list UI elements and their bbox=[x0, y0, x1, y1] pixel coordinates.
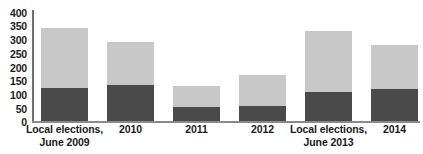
y-tick-label: 200 bbox=[10, 63, 27, 73]
bar-group bbox=[371, 45, 418, 121]
y-tick-label: 50 bbox=[16, 104, 27, 114]
bar-segment-upper bbox=[173, 86, 220, 107]
x-axis-tick-labels: Local elections, June 2009 2010 2011 201… bbox=[32, 123, 420, 154]
bar-segment-lower bbox=[305, 92, 352, 121]
bar-segment-upper bbox=[305, 31, 352, 91]
bar-segment-upper bbox=[371, 45, 418, 89]
y-axis-tick-labels: 400 350 300 250 200 150 100 50 0 bbox=[0, 0, 30, 130]
y-tick-label: 150 bbox=[10, 76, 27, 86]
bar-group bbox=[107, 42, 154, 121]
y-tick-label: 250 bbox=[10, 49, 27, 59]
bar-segment-lower bbox=[107, 85, 154, 121]
x-tick-label-line1: 2014 bbox=[383, 123, 406, 135]
bar-group bbox=[239, 75, 286, 121]
bar-segment-upper bbox=[239, 75, 286, 106]
y-tick-label: 300 bbox=[10, 35, 27, 45]
x-tick-label-line1: Local elections, bbox=[290, 123, 367, 135]
x-tick-label: 2010 bbox=[98, 123, 163, 136]
x-tick-label-line1: Local elections, bbox=[26, 123, 103, 135]
stacked-bar-chart: 400 350 300 250 200 150 100 50 0 bbox=[0, 0, 423, 154]
plot-area bbox=[32, 10, 420, 121]
x-tick-label-line1: 2012 bbox=[251, 123, 274, 135]
bar-segment-upper bbox=[107, 42, 154, 85]
bar-segment-lower bbox=[41, 88, 88, 121]
bar-segment-lower bbox=[239, 106, 286, 121]
bar-segment-lower bbox=[173, 107, 220, 121]
bar-group bbox=[41, 28, 88, 122]
y-tick-label: 400 bbox=[10, 8, 27, 18]
x-tick-label: 2014 bbox=[362, 123, 423, 136]
x-tick-label-line1: 2010 bbox=[119, 123, 142, 135]
bar-group bbox=[305, 31, 352, 121]
x-tick-label-line2: June 2013 bbox=[272, 136, 385, 149]
bar-group bbox=[173, 86, 220, 122]
bar-segment-upper bbox=[41, 28, 88, 88]
x-tick-label-line2: June 2009 bbox=[8, 136, 121, 149]
y-tick-label: 100 bbox=[10, 90, 27, 100]
x-tick-label: 2011 bbox=[164, 123, 229, 136]
x-tick-label-line1: 2011 bbox=[185, 123, 207, 135]
bar-segment-lower bbox=[371, 89, 418, 121]
y-tick-label: 350 bbox=[10, 21, 27, 31]
